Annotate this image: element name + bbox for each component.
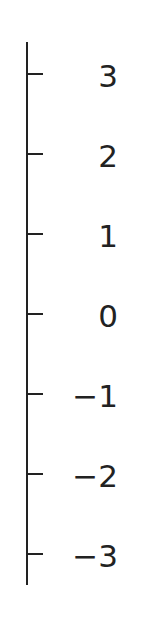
tick-label: −2 <box>72 459 118 493</box>
tick-label: −1 <box>72 379 118 413</box>
tick-mark <box>27 233 43 235</box>
tick-mark <box>27 313 43 315</box>
tick-mark <box>27 553 43 555</box>
tick-mark <box>27 473 43 475</box>
tick-label: 1 <box>98 219 118 253</box>
tick-mark <box>27 393 43 395</box>
tick-mark <box>27 73 43 75</box>
tick-mark <box>27 153 43 155</box>
tick-label: 0 <box>98 299 118 333</box>
tick-label: 2 <box>98 139 118 173</box>
tick-label: −3 <box>72 539 118 573</box>
tick-label: 3 <box>98 59 118 93</box>
